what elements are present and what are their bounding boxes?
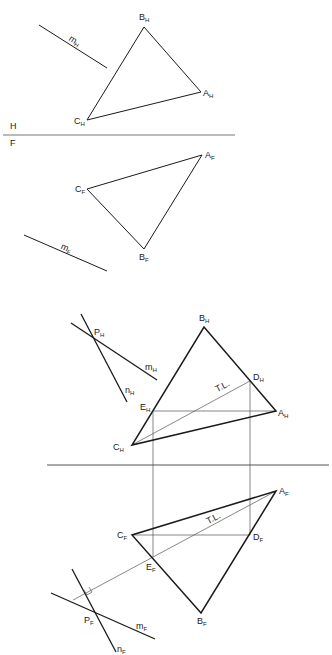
triangle-abc-frontal-2 (132, 491, 276, 613)
descriptive-geometry-diagram (0, 0, 332, 655)
point-label-dh: DH (253, 373, 264, 383)
triangle-abc-horizontal (87, 27, 201, 120)
point-label-df: DF (253, 533, 263, 543)
point-label-pf: PF (84, 616, 94, 626)
point-label-bf: BF (197, 617, 207, 627)
point-label-cf: CF (117, 531, 127, 541)
fold-label-f: F (10, 139, 16, 148)
point-label-mh: mH (145, 363, 157, 373)
point-label-bh: BH (199, 314, 209, 324)
triangle-abc-frontal (87, 155, 202, 249)
point-label-cf: CF (75, 185, 85, 195)
point-label-af: AF (279, 487, 289, 497)
point-label-nf: nF (117, 645, 126, 655)
line-m-frontal-2 (51, 593, 155, 639)
point-label-eh: EH (140, 403, 150, 413)
line-n-frontal (72, 569, 116, 652)
triangle-abc-horizontal-2 (132, 327, 276, 445)
point-label-ph: PH (94, 328, 104, 338)
point-label-ah: AH (278, 409, 288, 419)
point-label-ch: CH (74, 117, 85, 127)
point-label-ah: AH (203, 89, 213, 99)
panel-bottom (47, 314, 329, 652)
point-label-mf: mF (136, 622, 147, 632)
point-label-af: AF (205, 151, 215, 161)
true-length-line-cd (132, 381, 250, 445)
point-label-bh: BH (139, 13, 149, 23)
point-label-bf: BF (139, 253, 149, 263)
point-label-ch: CH (113, 443, 124, 453)
fold-label-h: H (10, 122, 17, 131)
point-label-nh: nH (125, 386, 134, 396)
panel-top (3, 25, 235, 271)
point-label-ef: EF (146, 563, 156, 573)
